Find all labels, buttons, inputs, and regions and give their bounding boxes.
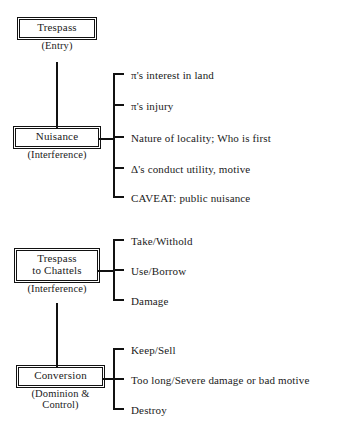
bracket-tick <box>113 408 124 410</box>
node-conversion-sublabel-line2: Control) <box>18 399 103 410</box>
branch-item-conversion-3: Destroy <box>131 405 167 416</box>
torts-flow-diagram: Trespass (Entry) Nuisance (Interference)… <box>0 0 343 445</box>
node-trespass-label: Trespass <box>37 21 77 33</box>
node-trespass-to-chattels-label-line1: Trespass <box>37 252 77 264</box>
bracket-tick <box>113 378 124 380</box>
connector-chattels-to-conversion <box>56 303 58 367</box>
bracket-tick <box>113 239 124 241</box>
branch-bracket-conversion <box>113 348 125 410</box>
branch-item-nuisance-3: Nature of locality; Who is first <box>131 133 271 144</box>
branch-item-nuisance-1: π's interest in land <box>131 70 214 81</box>
node-conversion-label: Conversion <box>34 369 87 381</box>
node-conversion-sublabel: (Dominion & Control) <box>18 388 103 411</box>
node-trespass-sublabel: (Entry) <box>19 40 95 51</box>
branch-bracket-nuisance <box>113 73 125 198</box>
node-trespass-to-chattels: Trespass to Chattels (Interference) <box>16 250 98 294</box>
bracket-tick <box>113 104 124 106</box>
node-trespass-to-chattels-sublabel: (Interference) <box>16 283 98 294</box>
bracket-tick <box>113 269 124 271</box>
bracket-tick <box>113 167 124 169</box>
node-conversion-box: Conversion <box>18 367 103 386</box>
bracket-tick <box>113 348 124 350</box>
branch-item-nuisance-2: π's injury <box>131 101 173 112</box>
node-conversion-sublabel-line1: (Dominion & <box>32 388 90 399</box>
bracket-tick <box>113 299 124 301</box>
node-trespass-box: Trespass <box>19 19 95 38</box>
branch-item-chattels-3: Damage <box>131 296 169 307</box>
bracket-tick <box>113 196 124 198</box>
node-nuisance-label: Nuisance <box>36 130 79 142</box>
bracket-tick <box>113 73 124 75</box>
node-trespass: Trespass (Entry) <box>19 19 95 51</box>
branch-item-chattels-2: Use/Borrow <box>131 266 186 277</box>
branch-item-chattels-1: Take/Withold <box>131 236 193 247</box>
node-conversion: Conversion (Dominion & Control) <box>18 367 103 411</box>
node-nuisance-sublabel: (Interference) <box>15 149 99 160</box>
branch-item-conversion-2: Too long/Severe damage or bad motive <box>131 375 309 386</box>
node-trespass-to-chattels-box: Trespass to Chattels <box>16 250 98 281</box>
connector-trespass-to-nuisance <box>56 62 58 128</box>
node-nuisance: Nuisance (Interference) <box>15 128 99 160</box>
bracket-tick <box>113 136 124 138</box>
branch-item-nuisance-4: Δ's conduct utility, motive <box>131 164 250 175</box>
branch-bracket-trespass-to-chattels <box>113 239 125 301</box>
connector-chattels-to-branch <box>98 270 114 272</box>
node-nuisance-box: Nuisance <box>15 128 99 147</box>
branch-item-nuisance-5: CAVEAT: public nuisance <box>131 193 250 204</box>
connector-nuisance-to-branch <box>99 138 114 140</box>
branch-item-conversion-1: Keep/Sell <box>131 345 176 356</box>
node-trespass-to-chattels-label-line2: to Chattels <box>24 265 90 277</box>
